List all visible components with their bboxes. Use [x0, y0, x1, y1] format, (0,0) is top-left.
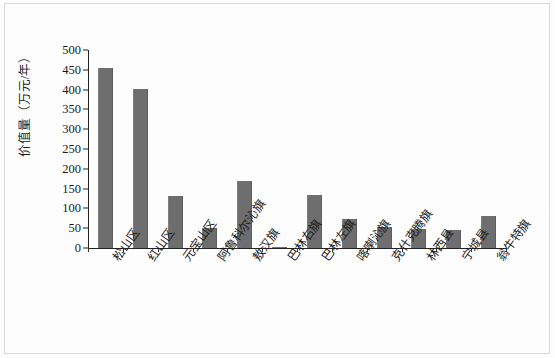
- plot-area: 050100150200250300350400450500: [88, 50, 506, 248]
- y-axis-label: 价值量（万元/年）: [14, 19, 33, 189]
- y-tick-mark: [83, 188, 88, 189]
- y-tick-mark: [83, 129, 88, 130]
- y-tick-mark: [83, 149, 88, 150]
- y-tick-mark: [83, 208, 88, 209]
- y-tick-mark: [83, 168, 88, 169]
- y-tick-mark: [83, 109, 88, 110]
- y-tick-mark: [83, 69, 88, 70]
- y-tick-mark: [83, 50, 88, 51]
- chart-figure: 价值量（万元/年） 050100150200250300350400450500…: [0, 0, 555, 358]
- x-tick-mark: [88, 248, 89, 252]
- y-tick-mark: [83, 89, 88, 90]
- bar: [133, 89, 148, 248]
- bar: [98, 68, 113, 248]
- y-tick-mark: [83, 228, 88, 229]
